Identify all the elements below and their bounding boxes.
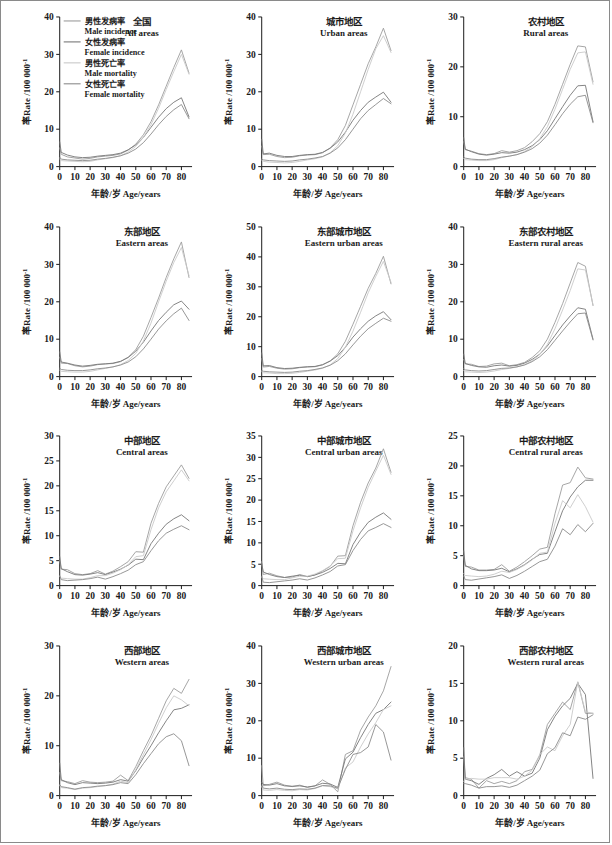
legend-label-en-female_incidence: Female incidence: [85, 48, 145, 57]
y-axis-title: 率Rate /100 000-1: [424, 687, 435, 753]
x-tick-label: 30: [303, 591, 313, 601]
series-line: [464, 262, 593, 366]
series-line: [60, 247, 189, 372]
y-tick-label: 10: [44, 124, 54, 134]
series-line: [464, 467, 593, 571]
x-tick-label: 50: [131, 172, 141, 182]
x-tick-label: 50: [535, 591, 545, 601]
x-tick-label: 40: [520, 381, 530, 391]
x-tick-label: 0: [57, 591, 62, 601]
series-line: [262, 28, 391, 157]
y-tick-label: 30: [246, 453, 256, 463]
panel-title-cn: 中部城市地区: [317, 435, 372, 446]
series-line: [60, 695, 189, 789]
series-line: [464, 714, 593, 787]
x-tick-label: 40: [116, 591, 126, 601]
x-tick-label: 10: [272, 381, 282, 391]
legend-label-cn-female_mortality: 女性死亡率: [85, 79, 125, 89]
x-tick-label: 70: [161, 800, 171, 810]
x-tick-label: 20: [287, 381, 297, 391]
panel-title-cn: 西部城市地区: [317, 644, 372, 655]
x-tick-label: 10: [272, 172, 282, 182]
x-tick-label: 10: [474, 172, 484, 182]
panel-title-cn: 东部农村地区: [519, 225, 574, 236]
series-line: [60, 515, 189, 575]
series-line: [262, 724, 391, 789]
series-line: [60, 301, 189, 366]
x-tick-label: 10: [272, 591, 282, 601]
series-line: [262, 455, 391, 579]
series-line: [464, 268, 593, 372]
series-line: [60, 308, 189, 370]
series-line: [262, 36, 391, 163]
y-tick-label: 10: [448, 716, 458, 726]
x-tick-label: 80: [177, 800, 187, 810]
x-axis-title: 年龄/岁 Age/years: [91, 397, 161, 408]
x-tick-label: 40: [520, 800, 530, 810]
series-line: [464, 307, 593, 366]
y-tick-label: 5: [453, 753, 458, 763]
panel-title-en: Central areas: [116, 447, 168, 457]
x-tick-label: 60: [146, 381, 156, 391]
series-line: [262, 318, 391, 372]
panel-title-cn: 中部农村地区: [519, 435, 574, 446]
y-tick-label: 20: [246, 87, 256, 97]
x-tick-label: 0: [57, 381, 62, 391]
series-line: [262, 705, 391, 790]
x-axis-title: 年龄/岁 Age/years: [495, 188, 565, 199]
series-line: [60, 241, 189, 366]
x-tick-label: 0: [461, 591, 466, 601]
y-tick-label: 10: [246, 753, 256, 763]
y-tick-label: 20: [44, 297, 54, 307]
x-axis-title: 年龄/岁 Age/years: [91, 607, 161, 618]
legend-label-en-female_mortality: Female mortality: [85, 90, 145, 99]
x-tick-label: 80: [581, 172, 591, 182]
x-tick-label: 0: [259, 800, 264, 810]
series-line: [464, 523, 593, 580]
legend-label-cn-female_incidence: 女性发病率: [85, 37, 125, 47]
x-tick-label: 60: [146, 591, 156, 601]
y-tick-label: 30: [44, 431, 54, 441]
x-tick-label: 0: [259, 381, 264, 391]
x-tick-label: 30: [303, 381, 313, 391]
panel-title-en: Western areas: [115, 656, 170, 666]
panel-title-cn: 中部地区: [124, 435, 161, 446]
x-tick-label: 40: [318, 591, 328, 601]
chart-panel-12: 0510152001020304050607080率Rate /100 000-…: [406, 632, 608, 842]
series-line: [60, 465, 189, 575]
x-tick-label: 80: [379, 591, 389, 601]
panel-title-cn: 全国: [132, 16, 151, 27]
x-tick-label: 80: [379, 172, 389, 182]
y-tick-label: 40: [246, 12, 256, 22]
y-tick-label: 20: [246, 312, 256, 322]
x-tick-label: 40: [116, 172, 126, 182]
y-tick-label: 15: [448, 491, 458, 501]
y-axis-title: 率Rate /100 000-1: [20, 59, 31, 125]
y-axis-title: 率Rate /100 000-1: [222, 59, 233, 125]
x-tick-label: 30: [101, 800, 111, 810]
x-tick-label: 70: [363, 172, 373, 182]
x-tick-label: 60: [550, 172, 560, 182]
x-tick-label: 20: [85, 172, 95, 182]
y-tick-label: 0: [49, 790, 54, 800]
y-axis-title: 率Rate /100 000-1: [424, 59, 435, 125]
x-tick-label: 40: [520, 591, 530, 601]
x-tick-label: 40: [318, 800, 328, 810]
x-tick-label: 20: [287, 800, 297, 810]
panel-title-en: Central urban areas: [305, 447, 383, 457]
x-tick-label: 70: [565, 172, 575, 182]
y-tick-label: 20: [448, 297, 458, 307]
x-tick-label: 30: [505, 172, 515, 182]
chart-panel-8: 0510152025303501020304050607080率Rate /10…: [204, 422, 406, 632]
y-axis-title: 率Rate /100 000-1: [222, 687, 233, 753]
x-tick-label: 80: [177, 591, 187, 601]
panel-title-cn: 东部城市地区: [317, 225, 372, 236]
x-tick-label: 20: [489, 591, 499, 601]
y-tick-label: 20: [448, 461, 458, 471]
y-tick-label: 30: [448, 259, 458, 269]
panel-title-en: Western rural areas: [508, 656, 585, 666]
y-tick-label: 40: [246, 641, 256, 651]
y-tick-label: 5: [49, 556, 54, 566]
y-tick-label: 10: [44, 531, 54, 541]
x-tick-label: 40: [116, 800, 126, 810]
